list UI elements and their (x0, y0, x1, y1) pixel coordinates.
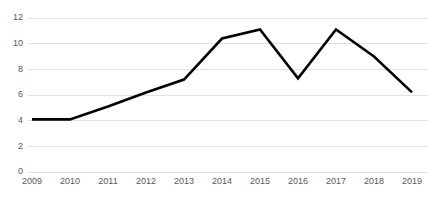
x-axis-label-2014: 2014 (212, 176, 232, 186)
x-axis-label-2010: 2010 (60, 176, 80, 186)
y-axis-label-10: 10 (13, 38, 23, 48)
line-chart: 024681012 200920102011201220132014201520… (0, 0, 428, 201)
x-axis-tick-labels: 2009201020112012201320142015201620172018… (22, 176, 422, 186)
x-axis-label-2009: 2009 (22, 176, 42, 186)
y-axis-label-12: 12 (13, 12, 23, 22)
x-axis-label-2012: 2012 (136, 176, 156, 186)
x-axis-label-2018: 2018 (364, 176, 384, 186)
x-axis-label-2013: 2013 (174, 176, 194, 186)
y-axis-tick-labels: 024681012 (13, 12, 23, 176)
data-series-group (32, 30, 412, 120)
x-axis-label-2019: 2019 (402, 176, 422, 186)
x-axis-label-2016: 2016 (288, 176, 308, 186)
y-axis-label-4: 4 (18, 115, 23, 125)
y-axis-label-0: 0 (18, 166, 23, 176)
y-axis-label-8: 8 (18, 64, 23, 74)
y-axis-label-6: 6 (18, 89, 23, 99)
x-axis-label-2017: 2017 (326, 176, 346, 186)
gridlines (28, 18, 428, 172)
x-axis-label-2011: 2011 (98, 176, 117, 186)
chart-plot-area: 024681012 200920102011201220132014201520… (0, 0, 428, 201)
y-axis-label-2: 2 (18, 141, 23, 151)
x-axis-label-2015: 2015 (250, 176, 270, 186)
data-line-series-0 (32, 30, 412, 120)
